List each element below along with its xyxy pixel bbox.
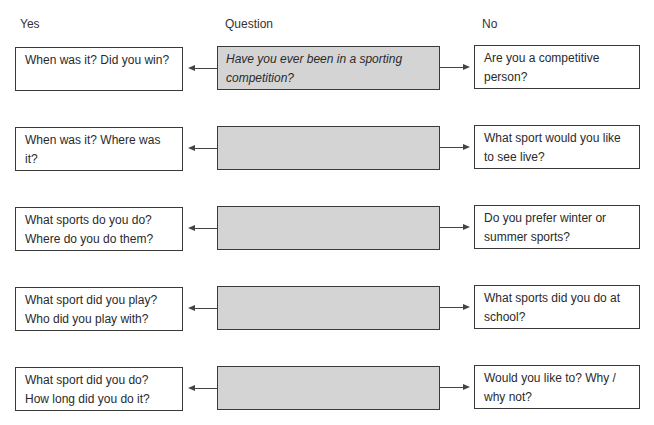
arrow-left-icon [190, 388, 217, 389]
yes-answer-box: What sports do you do? Where do you do t… [15, 207, 183, 251]
no-answer-box: What sports did you do at school? [474, 285, 640, 329]
no-answer-box: What sport would you like to see live? [474, 125, 640, 169]
yes-answer-box: What sport did you do? How long did you … [15, 367, 183, 411]
arrow-right-icon [440, 67, 468, 68]
no-answer-box: Would you like to? Why / why not? [474, 365, 640, 409]
question-box [217, 206, 440, 250]
arrow-left-icon [190, 148, 217, 149]
column-header-no: No [482, 17, 497, 31]
column-header-question: Question [225, 17, 273, 31]
arrow-right-icon [440, 307, 468, 308]
arrow-left-icon [190, 228, 217, 229]
question-box [217, 126, 440, 170]
column-header-yes: Yes [20, 17, 40, 31]
no-answer-box: Do you prefer winter or summer sports? [474, 205, 640, 249]
yes-answer-box: When was it? Where was it? [15, 127, 183, 171]
arrow-left-icon [190, 68, 217, 69]
yes-answer-box: What sport did you play? Who did you pla… [15, 287, 183, 331]
arrow-right-icon [440, 387, 468, 388]
yes-answer-box: When was it? Did you win? [15, 47, 183, 91]
arrow-left-icon [190, 308, 217, 309]
question-box [217, 286, 440, 330]
arrow-right-icon [440, 147, 468, 148]
question-box [217, 366, 440, 410]
no-answer-box: Are you a competitive person? [474, 45, 640, 89]
question-box: Have you ever been in a sporting competi… [217, 46, 440, 90]
arrow-right-icon [440, 227, 468, 228]
